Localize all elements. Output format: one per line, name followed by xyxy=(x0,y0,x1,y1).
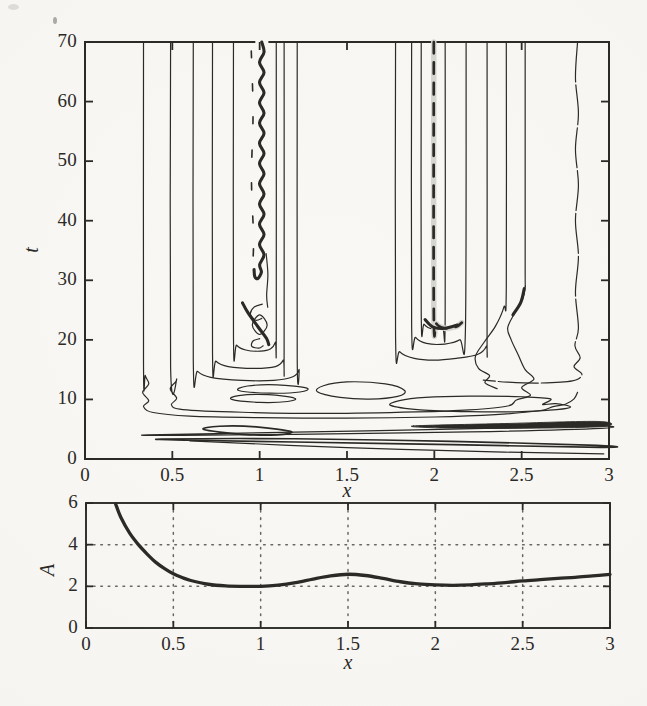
scan-smudge xyxy=(8,4,19,10)
contour-line xyxy=(395,42,487,363)
contour-canvas xyxy=(85,42,609,459)
a-axis-label: A xyxy=(36,556,58,584)
contour-line xyxy=(483,42,582,383)
x-tick-label: 3 xyxy=(580,634,640,654)
t-tick-label: 30 xyxy=(35,269,77,289)
contour-line xyxy=(230,395,295,403)
contour-line xyxy=(251,339,263,349)
contour-line xyxy=(434,42,462,336)
contour-line xyxy=(233,42,276,361)
t-tick-label: 40 xyxy=(35,210,77,230)
t-tick-label: 20 xyxy=(35,329,77,349)
contour-line xyxy=(251,51,253,271)
contour-frame xyxy=(85,42,609,459)
contour-line xyxy=(475,42,506,389)
contour-line xyxy=(190,441,604,454)
x-tick-label: 2.5 xyxy=(492,465,552,485)
contour-line xyxy=(316,382,405,399)
x-tick-label: 2.5 xyxy=(493,634,553,654)
t-tick-label: 10 xyxy=(35,388,77,408)
x-tick-label: 3 xyxy=(579,465,639,485)
contour-line xyxy=(193,42,299,387)
a-tick-label: 6 xyxy=(38,492,78,512)
x-tick-label: 1 xyxy=(230,465,290,485)
t-tick-label: 70 xyxy=(35,31,77,51)
x-tick-label: 0.5 xyxy=(143,634,203,654)
contour-line xyxy=(513,289,524,315)
contour-line xyxy=(143,42,578,418)
a-tick-label: 4 xyxy=(38,534,78,554)
contour-line xyxy=(243,303,269,345)
x-tick-label: 0 xyxy=(55,465,115,485)
x-tick-label: 0 xyxy=(56,634,116,654)
amplitude-canvas xyxy=(86,503,610,628)
contour-line xyxy=(238,385,309,393)
contour-line xyxy=(411,42,466,355)
x-tick-label: 1 xyxy=(231,634,291,654)
t-tick-label: 50 xyxy=(35,150,77,170)
t-axis-label: t xyxy=(20,237,42,263)
x-axis-label-bottom: x xyxy=(336,651,360,673)
contour-line xyxy=(170,42,534,413)
contour-line xyxy=(212,42,284,378)
scanned-figure-page: 010203040506070 00.511.522.53 t x 0246 0… xyxy=(0,0,647,706)
x-tick-label: 0.5 xyxy=(142,465,202,485)
x-axis-label-top: x xyxy=(335,479,359,501)
x-tick-label: 2 xyxy=(405,634,465,654)
contour-line xyxy=(254,42,264,279)
x-tick-label: 2 xyxy=(404,465,464,485)
contour-line xyxy=(266,253,268,307)
scan-speck xyxy=(53,17,57,24)
contour-line xyxy=(411,421,612,428)
contour-line xyxy=(425,320,457,329)
contour-line xyxy=(434,42,462,336)
amplitude-frame xyxy=(86,503,610,628)
t-tick-label: 60 xyxy=(35,91,77,111)
